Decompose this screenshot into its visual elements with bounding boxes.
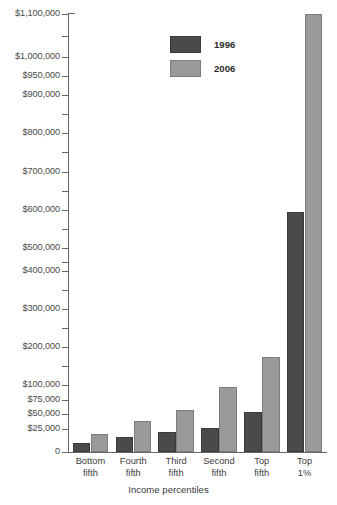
y-axis-tick <box>62 347 69 348</box>
y-axis-tick-label: $900,000 <box>0 90 60 99</box>
bar-2006-2 <box>134 421 152 452</box>
x-axis-label-6: Top1% <box>275 456 335 479</box>
y-axis-tick <box>62 14 69 15</box>
bar-2006-1 <box>91 434 109 452</box>
y-axis-tick-label: $25,000 <box>0 424 60 433</box>
x-axis-label-line1: Top <box>297 456 312 466</box>
bar-1996-4 <box>201 428 219 452</box>
bar-2006-5 <box>262 357 280 453</box>
bar-1996-1 <box>73 443 91 452</box>
y-axis-tick <box>62 271 69 272</box>
legend-swatch-1996 <box>170 36 201 53</box>
y-axis-tick <box>62 400 69 401</box>
y-axis-tick-label: $50,000 <box>0 409 60 418</box>
y-axis-tick-label: $300,000 <box>0 304 60 313</box>
y-axis-tick <box>62 248 69 249</box>
y-axis-tick <box>62 385 69 386</box>
y-axis-tick-label: $700,000 <box>0 167 60 176</box>
y-axis-tick <box>62 328 69 329</box>
y-axis-tick <box>62 57 69 58</box>
x-axis-label-line1: Bottom <box>76 456 105 466</box>
x-axis-line <box>68 452 327 453</box>
legend-label-2006: 2006 <box>214 63 235 74</box>
y-axis-tick <box>62 309 69 310</box>
y-axis-tick-label: $950,000 <box>0 71 60 80</box>
y-axis-tick <box>62 429 69 430</box>
y-axis-tick-label: $1,000,000 <box>0 52 60 61</box>
y-axis-tick <box>62 414 69 415</box>
y-axis-tick-label: $75,000 <box>0 395 60 404</box>
y-axis-tick <box>62 366 69 367</box>
y-axis-tick <box>62 152 69 153</box>
x-axis-label-line1: Third <box>165 456 186 466</box>
bars-layer <box>69 14 326 452</box>
bar-2006-3 <box>176 410 194 452</box>
y-axis-tick-label: $800,000 <box>0 128 60 137</box>
y-axis-tick-label: $100,000 <box>0 380 60 389</box>
y-axis-tick <box>62 229 69 230</box>
y-axis-tick-label: $400,000 <box>0 266 60 275</box>
y-axis-tick <box>62 290 69 291</box>
x-axis-label-line1: Second <box>203 456 235 466</box>
bar-1996-5 <box>244 412 262 452</box>
y-axis-tick-label: 0 <box>0 447 60 456</box>
y-axis-tick <box>62 191 69 192</box>
y-axis-tick <box>62 452 69 453</box>
y-axis-tick <box>62 36 69 37</box>
bar-1996-6 <box>287 212 305 452</box>
bar-1996-2 <box>116 437 134 452</box>
bar-2006-4 <box>219 387 237 452</box>
x-axis-title: Income percentiles <box>0 484 337 495</box>
y-axis-tick <box>62 95 69 96</box>
legend-label-1996: 1996 <box>214 39 235 50</box>
y-axis-tick <box>62 262 69 263</box>
bar-2006-6 <box>305 14 323 452</box>
y-axis-tick <box>62 76 69 77</box>
x-axis-label-line2: 1% <box>275 468 335 480</box>
x-axis-label-line1: Fourth <box>120 456 147 466</box>
bar-1996-3 <box>158 432 176 452</box>
y-axis-tick-label: $500,000 <box>0 243 60 252</box>
y-axis-tick <box>62 172 69 173</box>
y-axis-tick <box>62 210 69 211</box>
x-axis-label-line1: Top <box>254 456 269 466</box>
y-axis-tick <box>62 114 69 115</box>
bar-chart: $1,100,000$1,000,000$950,000$900,000$800… <box>0 0 337 505</box>
y-axis-tick-label: $200,000 <box>0 342 60 351</box>
legend-swatch-2006 <box>170 60 201 77</box>
y-axis-tick-label: $600,000 <box>0 205 60 214</box>
y-axis-tick-label: $1,100,000 <box>0 9 60 18</box>
y-axis-tick <box>62 133 69 134</box>
